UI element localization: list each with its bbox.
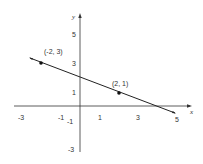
x-tick-label: 3 <box>136 114 140 121</box>
x-tick-label: 5 <box>175 116 179 123</box>
y-tick-label: 3 <box>72 60 76 67</box>
y-axis-arrow-icon <box>78 13 81 18</box>
graph-line <box>30 58 175 113</box>
x-tick-label: 1 <box>98 114 102 121</box>
point-neg2-3 <box>39 61 43 65</box>
line-arrow-left-icon <box>29 58 33 61</box>
point-label-neg2-3: (-2, 3) <box>44 48 63 56</box>
point-2-1 <box>117 91 121 95</box>
x-tick-label: -3 <box>18 114 24 121</box>
y-tick-label: 5 <box>72 31 76 38</box>
line-arrow-right-icon <box>172 111 176 113</box>
y-axis-label: y <box>71 13 76 21</box>
y-tick-label: -1 <box>67 118 73 125</box>
x-tick-label: -1 <box>58 114 64 121</box>
y-tick-label: 1 <box>72 89 76 96</box>
x-axis-label: x <box>189 108 194 116</box>
coordinate-plane: (-2, 3) (2, 1) x y -3 -1 1 3 5 5 3 1 -1 … <box>0 0 203 164</box>
point-label-2-1: (2, 1) <box>112 80 128 88</box>
y-tick-label: -3 <box>68 146 74 153</box>
